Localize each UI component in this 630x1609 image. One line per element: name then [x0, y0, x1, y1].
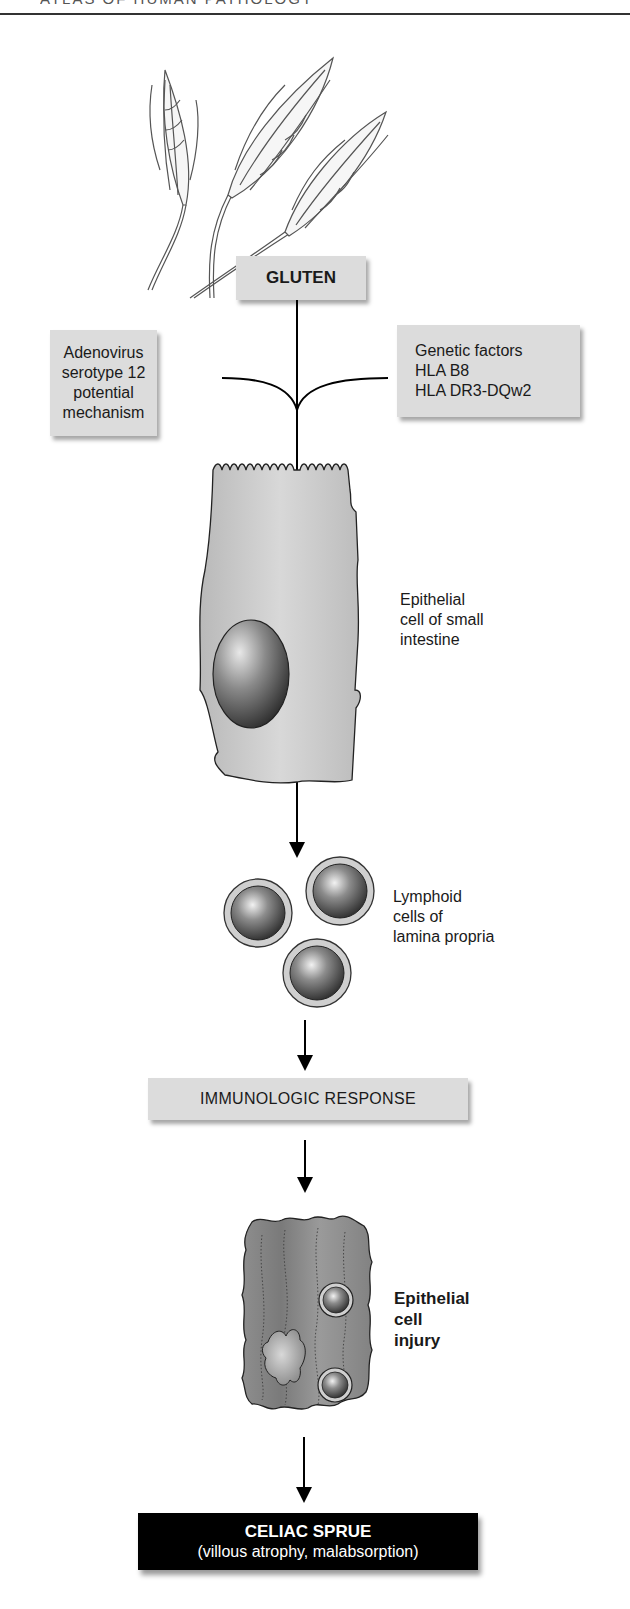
injury-label-line-3: injury [394, 1330, 470, 1351]
genetic-line-2: HLA B8 [415, 361, 469, 381]
genetic-line-3: HLA DR3-DQw2 [415, 381, 531, 401]
adenovirus-factor-box: Adenovirus serotype 12 potential mechani… [50, 330, 157, 436]
arrow-head-icon [297, 1177, 313, 1193]
adenovirus-line-4: mechanism [63, 403, 145, 423]
nucleus [213, 620, 289, 728]
epithelial-label-line-2: cell of small [400, 610, 484, 630]
immunologic-response-node: IMMUNOLOGIC RESPONSE [148, 1078, 468, 1120]
diagram-artwork [0, 0, 630, 1609]
arrow-head-icon [296, 1487, 312, 1503]
adenovirus-line-2: serotype 12 [62, 363, 146, 383]
connector-left [222, 378, 297, 410]
celiac-sprue-node: CELIAC SPRUE (villous atrophy, malabsorp… [138, 1513, 478, 1570]
arrow-head-icon [297, 1055, 313, 1071]
injury-label-line-1: Epithelial [394, 1288, 470, 1309]
epithelial-cell-illustration [200, 464, 361, 783]
adenovirus-line-1: Adenovirus [63, 343, 143, 363]
lymphoid-label-line-3: lamina propria [393, 927, 494, 947]
connector-right [297, 378, 388, 410]
lymphoid-cells-illustration [224, 857, 374, 1007]
arrow-head-icon [289, 842, 305, 858]
injury-label-line-2: cell [394, 1309, 470, 1330]
genetic-factors-box: Genetic factors HLA B8 HLA DR3-DQw2 [397, 325, 580, 417]
celiac-sprue-subtitle: (villous atrophy, malabsorption) [138, 1542, 478, 1562]
epithelial-cell-label: Epithelial cell of small intestine [400, 590, 484, 650]
gluten-node: GLUTEN [236, 256, 366, 300]
injured-cell-illustration [242, 1216, 372, 1409]
lymphoid-label-line-1: Lymphoid [393, 887, 494, 907]
genetic-line-1: Genetic factors [415, 341, 523, 361]
lymphoid-cells-label: Lymphoid cells of lamina propria [393, 887, 494, 947]
celiac-sprue-title: CELIAC SPRUE [138, 1522, 478, 1542]
epithelial-injury-label: Epithelial cell injury [394, 1288, 470, 1351]
epithelial-label-line-3: intestine [400, 630, 484, 650]
epithelial-label-line-1: Epithelial [400, 590, 484, 610]
lymphoid-label-line-2: cells of [393, 907, 494, 927]
adenovirus-line-3: potential [73, 383, 134, 403]
